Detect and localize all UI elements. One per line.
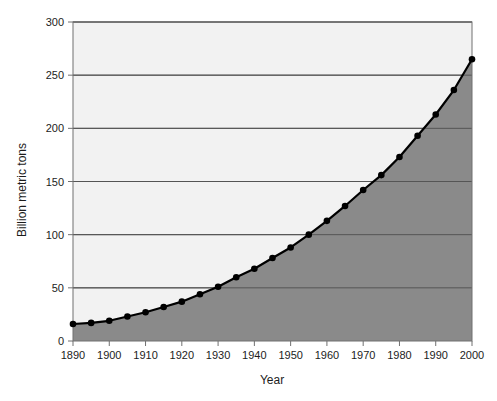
data-point-1910: [142, 309, 149, 316]
data-point-1920: [179, 298, 186, 305]
x-tick-label-1960: 1960: [315, 349, 339, 361]
data-point-1940: [251, 265, 258, 272]
data-point-1950: [287, 244, 294, 251]
x-tick-label-1890: 1890: [61, 349, 85, 361]
y-axis-title: Billion metric tons: [15, 143, 29, 237]
x-tick-label-1980: 1980: [387, 349, 411, 361]
data-point-1890: [70, 321, 77, 328]
data-point-1935: [233, 274, 240, 281]
x-tick-label-1930: 1930: [206, 349, 230, 361]
emissions-area-chart: 050100150200250300 189019001910192019301…: [0, 0, 497, 401]
data-point-1975: [378, 172, 385, 179]
data-point-1905: [124, 313, 131, 320]
data-point-1985: [414, 132, 421, 139]
x-tick-label-2000: 2000: [460, 349, 484, 361]
data-point-2000: [469, 56, 476, 63]
data-point-1960: [324, 218, 331, 225]
y-tick-label-50: 50: [52, 282, 64, 294]
data-point-1925: [197, 291, 204, 298]
data-point-1965: [342, 203, 349, 210]
x-tick-label-1900: 1900: [97, 349, 121, 361]
data-point-1970: [360, 187, 367, 194]
y-tick-label-150: 150: [46, 176, 64, 188]
x-tick-label-1970: 1970: [351, 349, 375, 361]
data-point-1955: [305, 231, 312, 238]
x-tick-label-1950: 1950: [278, 349, 302, 361]
data-point-1930: [215, 283, 222, 290]
data-point-1995: [451, 87, 458, 94]
x-tick-label-1940: 1940: [242, 349, 266, 361]
y-tick-label-250: 250: [46, 69, 64, 81]
x-tick-label-1990: 1990: [423, 349, 447, 361]
data-point-1900: [106, 318, 113, 325]
y-tick-label-300: 300: [46, 16, 64, 28]
data-point-1990: [432, 111, 439, 118]
data-point-1945: [269, 255, 276, 262]
data-point-1915: [160, 304, 167, 311]
y-tick-label-100: 100: [46, 229, 64, 241]
chart-figure: 050100150200250300 189019001910192019301…: [0, 0, 497, 401]
x-tick-label-1910: 1910: [133, 349, 157, 361]
x-axis-title: Year: [260, 373, 284, 387]
x-tick-label-1920: 1920: [170, 349, 194, 361]
data-point-1980: [396, 154, 403, 161]
data-point-1895: [88, 320, 95, 327]
y-tick-label-0: 0: [58, 335, 64, 347]
y-tick-label-200: 200: [46, 122, 64, 134]
